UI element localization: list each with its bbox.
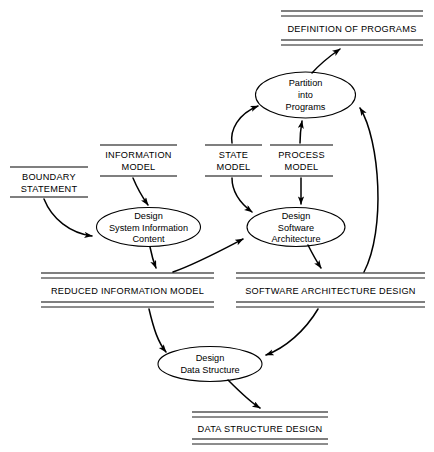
flow-swarch-store-to-design-ds xyxy=(266,309,318,355)
process-label-line3: Content xyxy=(132,234,165,244)
process-label-line3: Architecture xyxy=(271,234,320,244)
process-ellipse xyxy=(158,347,262,382)
process-label-line2: Data Structure xyxy=(180,365,239,375)
store-data-structure-design[interactable]: DATA STRUCTURE DESIGN xyxy=(192,412,328,444)
store-reduced-information-model[interactable]: REDUCED INFORMATION MODEL xyxy=(41,273,214,307)
flow-swarch-store-to-partition xyxy=(360,108,378,272)
store-definition-of-programs[interactable]: DEFINITION OF PROGRAMS xyxy=(281,11,423,45)
process-label-line1: Design xyxy=(196,353,225,363)
store-state-model[interactable]: STATE MODEL xyxy=(205,145,262,176)
store-label-line1: INFORMATION xyxy=(105,150,171,160)
store-label-line2: STATEMENT xyxy=(21,184,78,194)
process-design-software-architecture[interactable]: Design Software Architecture xyxy=(247,208,345,247)
process-design-system-information-content[interactable]: Design System Information Content xyxy=(97,208,201,247)
process-label-line1: Design xyxy=(134,211,163,221)
flow-infomodel-to-design-sic xyxy=(133,178,148,205)
store-process-model[interactable]: PROCESS MODEL xyxy=(270,145,333,176)
flow-processmodel-to-partition xyxy=(300,121,302,143)
flow-statemodel-to-design-sa xyxy=(232,178,252,212)
store-label: DEFINITION OF PROGRAMS xyxy=(287,24,416,34)
flow-partition-to-definition xyxy=(312,49,340,73)
flow-design-ds-to-datastruct-store xyxy=(228,380,260,408)
process-label-line1: Partition xyxy=(289,78,323,88)
store-label-line2: MODEL xyxy=(122,162,156,172)
store-label: DATA STRUCTURE DESIGN xyxy=(198,424,323,434)
store-label-line1: BOUNDARY xyxy=(22,172,76,182)
flow-design-sic-to-reduced xyxy=(150,247,156,268)
data-flow-diagram: DEFINITION OF PROGRAMS BOUNDARY STATEMEN… xyxy=(0,0,434,452)
flow-design-sa-to-swarch-store xyxy=(308,245,321,268)
store-label-line2: MODEL xyxy=(217,162,251,172)
store-information-model[interactable]: INFORMATION MODEL xyxy=(100,145,177,176)
process-label-line2: Software xyxy=(278,223,314,233)
store-label-line1: STATE xyxy=(219,150,249,160)
store-label-line2: MODEL xyxy=(285,162,319,172)
store-label-line1: PROCESS xyxy=(278,150,325,160)
store-label: SOFTWARE ARCHITECTURE DESIGN xyxy=(245,286,416,296)
store-software-architecture-design[interactable]: SOFTWARE ARCHITECTURE DESIGN xyxy=(236,273,425,307)
flow-statemodel-to-partition xyxy=(232,106,258,143)
store-boundary-statement[interactable]: BOUNDARY STATEMENT xyxy=(10,167,88,197)
process-label-line1: Design xyxy=(282,211,311,221)
process-partition-into-programs[interactable]: Partition into Programs xyxy=(256,72,356,118)
flow-boundary-to-design-sic xyxy=(44,199,92,236)
flow-reduced-to-design-ds xyxy=(149,309,166,352)
flow-reduced-to-design-sa xyxy=(173,239,243,272)
process-label-line2: into xyxy=(298,90,313,100)
process-label-line3: Programs xyxy=(286,102,326,112)
process-design-data-structure[interactable]: Design Data Structure xyxy=(158,347,262,382)
store-label: REDUCED INFORMATION MODEL xyxy=(51,286,204,296)
process-label-line2: System Information xyxy=(109,223,188,233)
